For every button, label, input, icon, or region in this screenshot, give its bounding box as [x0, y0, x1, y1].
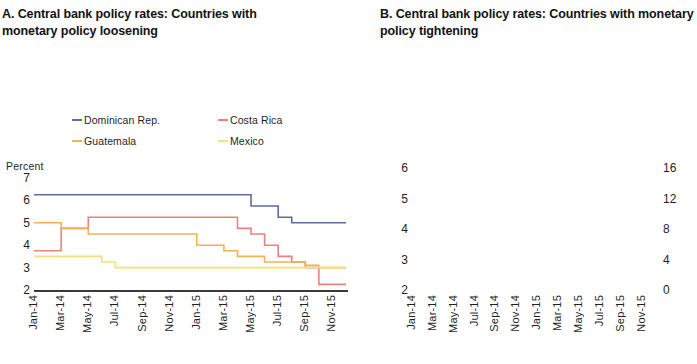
x-axis-tick-label: Nov-15	[636, 295, 647, 332]
y2-axis-tick-label: 8	[663, 223, 679, 235]
panel-a-legend: Dominican Rep.Costa RicaGuatemalaMexico	[72, 114, 330, 147]
y-axis-tick-label: 7	[14, 172, 30, 184]
x-axis-tick-label: Jan-15	[531, 295, 542, 330]
x-axis-tick-label: Jan-14	[28, 295, 39, 330]
y2-axis-tick-label: 16	[663, 162, 679, 174]
legend-label: Costa Rica	[230, 114, 282, 126]
legend-item-costa-rica[interactable]: Costa Rica	[218, 114, 330, 126]
legend-swatch-icon	[218, 119, 228, 121]
y2-axis-tick-label: 0	[663, 284, 679, 296]
panel-a-series-group	[34, 178, 346, 290]
series-line-guatemala	[34, 223, 346, 268]
y2-axis-tick-label: 4	[663, 254, 679, 266]
panel-a-title: A. Central bank policy rates: Countries …	[2, 6, 302, 39]
x-axis-tick-label: May-15	[245, 295, 256, 333]
legend-item-mexico[interactable]: Mexico	[218, 135, 330, 147]
x-axis-tick-label: Jul-15	[272, 295, 283, 326]
y-axis-tick-label: 4	[392, 223, 408, 235]
legend-label: Dominican Rep.	[84, 114, 160, 126]
x-axis-tick-label: Jul-14	[469, 295, 480, 326]
legend-item-dominican-rep[interactable]: Dominican Rep.	[72, 114, 218, 126]
x-axis-tick-label: May-14	[82, 295, 93, 333]
x-axis-tick-label: Jan-15	[191, 295, 202, 330]
panel-b-title: B. Central bank policy rates: Countries …	[380, 6, 697, 39]
legend-label: Mexico	[230, 135, 264, 147]
x-axis-tick-label: Sep-15	[299, 295, 310, 332]
panel-a-axis-line	[34, 290, 348, 292]
series-line-dominican-rep	[34, 195, 346, 223]
panel-a-plot	[34, 178, 346, 290]
x-axis-tick-label: Sep-14	[137, 295, 148, 332]
x-axis-tick-label: Sep-14	[489, 295, 500, 332]
x-axis-tick-label: Nov-14	[164, 295, 175, 332]
x-axis-tick-label: Mar-15	[218, 295, 229, 331]
x-axis-tick-label: Mar-14	[55, 295, 66, 331]
x-axis-tick-label: May-14	[448, 295, 459, 333]
y-axis-tick-label: 5	[392, 193, 408, 205]
x-axis-tick-label: Mar-14	[427, 295, 438, 331]
legend-swatch-icon	[72, 140, 82, 142]
x-axis-tick-label: Jul-14	[109, 295, 120, 326]
legend-swatch-icon	[72, 119, 82, 121]
x-axis-tick-label: Nov-15	[326, 295, 337, 332]
x-axis-tick-label: May-15	[573, 295, 584, 333]
x-axis-tick-label: Sep-15	[615, 295, 626, 332]
x-axis-tick-label: Nov-14	[510, 295, 521, 332]
legend-label: Guatemala	[84, 135, 136, 147]
y-axis-tick-label: 4	[14, 239, 30, 251]
y-axis-tick-label: 6	[392, 162, 408, 174]
x-axis-tick-label: Jan-14	[406, 295, 417, 330]
y-axis-tick-label: 5	[14, 217, 30, 229]
x-axis-tick-label: Mar-15	[552, 295, 563, 331]
legend-item-guatemala[interactable]: Guatemala	[72, 135, 218, 147]
y-axis-tick-label: 3	[14, 262, 30, 274]
y-axis-tick-label: 6	[14, 194, 30, 206]
y-axis-tick-label: 3	[392, 254, 408, 266]
y2-axis-tick-label: 12	[663, 193, 679, 205]
x-axis-tick-label: Jul-15	[594, 295, 605, 326]
series-line-costa-rica	[34, 217, 346, 284]
legend-swatch-icon	[218, 140, 228, 142]
